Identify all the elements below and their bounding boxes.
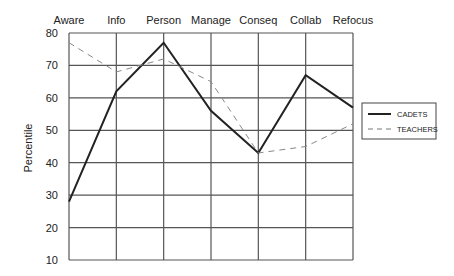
y-tick-label: 50	[46, 124, 58, 136]
y-tick-label: 20	[46, 222, 58, 234]
category-label: Manage	[191, 14, 231, 26]
y-tick-label: 80	[46, 27, 58, 39]
grid	[69, 33, 353, 260]
category-label: Aware	[54, 14, 85, 26]
category-label: Conseq	[239, 14, 277, 26]
y-tick-label: 60	[46, 92, 58, 104]
y-tick-label: 40	[46, 157, 58, 169]
category-label: Collab	[290, 14, 321, 26]
legend: CADETS TEACHERS	[362, 103, 438, 139]
y-axis-ticks: 1020304050607080	[46, 27, 58, 266]
y-tick-label: 10	[46, 254, 58, 266]
category-label: Person	[146, 14, 181, 26]
legend-teachers-label: TEACHERS	[397, 125, 438, 134]
line-chart: AwareInfoPersonManageConseqCollabRefocus…	[0, 0, 454, 276]
category-label: Refocus	[333, 14, 374, 26]
y-tick-label: 70	[46, 59, 58, 71]
legend-cadets-label: CADETS	[397, 110, 427, 119]
category-labels: AwareInfoPersonManageConseqCollabRefocus	[54, 14, 374, 26]
y-axis-label: Percentile	[22, 124, 34, 173]
category-label: Info	[107, 14, 125, 26]
y-tick-label: 30	[46, 189, 58, 201]
